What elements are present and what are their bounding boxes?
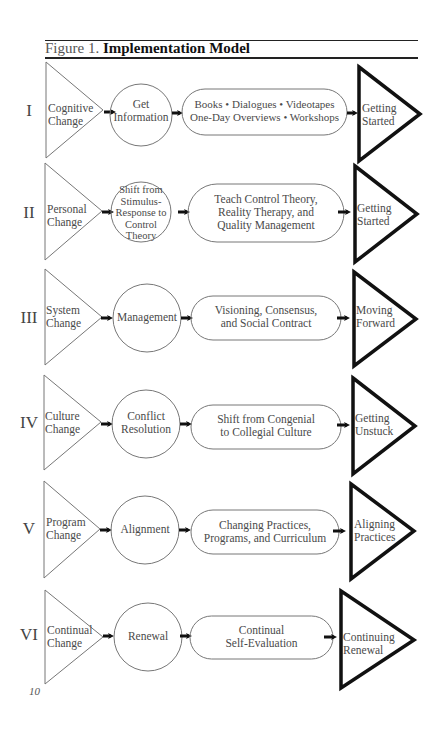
row-1-process-label: Get Information [110, 98, 172, 124]
row-4-activities-label: Shift from Congenial to Collegial Cultur… [191, 413, 341, 439]
row-2-numeral: II [14, 203, 44, 223]
row-5-change-label: Program Change [46, 516, 101, 542]
row-5-outcome-label: Aligning Practices [354, 518, 402, 544]
row-6-change-label: Continual Change [47, 624, 103, 650]
row-4-process-label: Conflict Resolution [112, 410, 180, 436]
row-4-numeral: IV [14, 413, 44, 433]
row-3-process-label: Management [113, 311, 181, 324]
row-5-process-label: Alignment [111, 523, 179, 536]
row-2-outcome-label: Getting Started [357, 202, 402, 228]
row-4-outcome-label: Getting Unstuck [355, 412, 400, 438]
row-6-process-label: Renewal [114, 630, 182, 643]
row-6-activities-label: Continual Self-Evaluation [190, 624, 333, 650]
page-number: 10 [29, 685, 40, 697]
row-1-change-label: Cognitive Change [48, 102, 103, 128]
row-4-change-label: Culture Change [45, 410, 100, 436]
row-3-activities-label: Visioning, Consensus, and Social Contrac… [191, 304, 341, 330]
row-3-change-label: System Change [46, 304, 101, 330]
row-6-outcome-label: Continuing Renewal [343, 631, 401, 657]
row-1-numeral: I [14, 101, 44, 121]
row-2-change-label: Personal Change [47, 203, 102, 229]
row-3-numeral: III [14, 308, 44, 328]
row-3-outcome-label: Moving Forward [356, 304, 401, 330]
row-2-process-label: Shift from Stimulus- Response to Control… [111, 184, 171, 242]
row-2-activities-label: Teach Control Theory, Reality Therapy, a… [188, 193, 344, 232]
row-5-numeral: V [14, 519, 44, 539]
row-6-numeral: VI [14, 625, 44, 645]
row-1-activities-label: Books • Dialogues • Videotapes One-Day O… [182, 98, 347, 124]
row-5-activities-label: Changing Practices, Programs, and Curric… [191, 519, 339, 545]
row-1-outcome-label: Getting Started [362, 102, 407, 128]
